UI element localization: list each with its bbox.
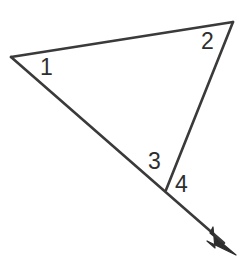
- angle-diagram-figure: 1 2 3 4: [0, 0, 250, 268]
- angle-label-4: 4: [175, 173, 188, 196]
- angle-label-2: 2: [201, 30, 214, 53]
- angle-label-3: 3: [148, 150, 161, 173]
- angle-label-1: 1: [40, 56, 53, 79]
